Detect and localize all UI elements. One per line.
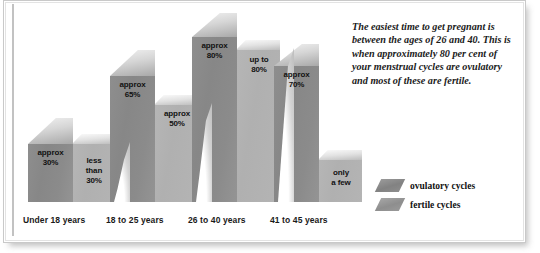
legend-swatch-icon — [375, 179, 405, 192]
x-axis-label-18-25: 18 to 25 years — [106, 215, 164, 225]
x-axis-label-under-18: Under 18 years — [23, 215, 85, 225]
bar-label-front-26-40: approx 80% — [192, 41, 237, 61]
bar-top-front-under-18 — [28, 118, 73, 144]
bar-label-front-18-25: approx 65% — [110, 80, 155, 100]
x-axis-label-41-45: 41 to 45 years — [270, 215, 328, 225]
figure-root: approx 30% less than 30% approx 65% appr… — [0, 0, 540, 253]
bar-label-line: approx — [110, 80, 155, 90]
bar-label-line: approx — [28, 148, 73, 158]
bar-label-side-41-45: only a few — [320, 168, 362, 188]
bar-label-line: up to — [238, 55, 280, 65]
bar-label-side-18-25: approx 50% — [156, 109, 198, 129]
bar-label-line: approx — [274, 70, 319, 80]
bar-top-side-26-40 — [236, 40, 280, 50]
bar-label-line: 30% — [74, 176, 114, 186]
bar-label-line: 50% — [156, 119, 198, 129]
legend-label-fertile: fertile cycles — [410, 200, 460, 210]
left-accent-rule — [12, 4, 14, 236]
legend-item-fertile: fertile cycles — [378, 195, 475, 214]
bar-top-front-26-40 — [192, 13, 237, 37]
bar-label-side-under-18: less than 30% — [74, 156, 114, 186]
bar-label-line: than — [74, 166, 114, 176]
bar-top-front-41-45 — [274, 44, 319, 66]
bar-label-line: approx — [156, 109, 198, 119]
bar-top-side-41-45 — [318, 150, 362, 160]
legend-item-ovulatory: ovulatory cycles — [378, 176, 475, 195]
bar-front-ovulatory-26-40 — [192, 37, 237, 202]
bar-label-line: approx — [192, 41, 237, 51]
bar-top-front-18-25 — [110, 50, 155, 76]
caption-text: The easiest time to get pregnant is betw… — [352, 20, 512, 87]
bar-label-line: 80% — [192, 51, 237, 61]
legend-label-ovulatory: ovulatory cycles — [410, 181, 475, 191]
bar-label-line: a few — [320, 178, 362, 188]
x-axis-label-26-40: 26 to 40 years — [188, 215, 246, 225]
chart-legend: ovulatory cycles fertile cycles — [378, 176, 475, 214]
bar-chart-plot-area: approx 30% less than 30% approx 65% appr… — [18, 2, 338, 237]
bar-label-line: less — [74, 156, 114, 166]
bar-label-line: 30% — [28, 158, 73, 168]
bar-label-front-41-45: approx 70% — [274, 70, 319, 90]
bar-label-line: 70% — [274, 80, 319, 90]
bar-group-under-18: approx 30% less than 30% — [28, 72, 116, 202]
bar-label-front-under-18: approx 30% — [28, 148, 73, 168]
bar-label-line: 65% — [110, 90, 155, 100]
legend-swatch-icon — [375, 198, 405, 211]
bar-label-line: only — [320, 168, 362, 178]
